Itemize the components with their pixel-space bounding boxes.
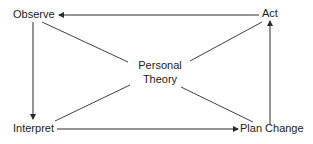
node-interpret: Interpret <box>13 122 54 135</box>
center-label-line1: Personal <box>128 58 192 72</box>
node-act: Act <box>262 7 278 20</box>
center-label-line2: Theory <box>128 72 192 86</box>
edge-theory-observe <box>42 22 128 62</box>
node-observe: Observe <box>13 8 55 21</box>
diagram-canvas: Observe Act Interpret Plan Change Person… <box>0 0 313 144</box>
node-plan-change: Plan Change <box>240 122 304 135</box>
edge-theory-interpret <box>55 85 130 121</box>
node-personal-theory: Personal Theory <box>128 58 192 86</box>
edge-theory-act <box>190 22 262 61</box>
edge-theory-plan-change <box>181 87 253 122</box>
